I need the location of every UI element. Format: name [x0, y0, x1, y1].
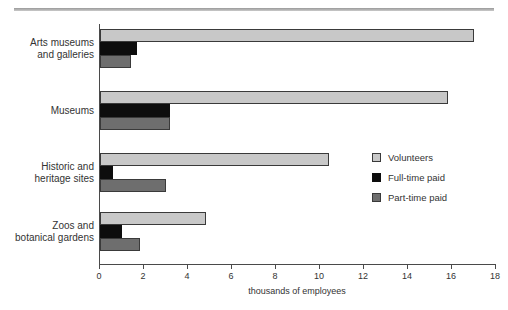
legend-item: Part-time paid — [372, 192, 447, 203]
x-tick-label-2: 2 — [133, 271, 153, 281]
bar-part-time-paid — [100, 179, 166, 192]
bar-volunteers — [100, 91, 448, 104]
x-axis-line — [99, 264, 495, 265]
x-tick-2 — [143, 264, 144, 269]
legend-label: Part-time paid — [388, 192, 447, 203]
x-tick-6 — [231, 264, 232, 269]
x-tick-12 — [363, 264, 364, 269]
category-label-line: Museums — [0, 105, 94, 117]
x-tick-label-10: 10 — [309, 271, 329, 281]
x-tick-label-0: 0 — [89, 271, 109, 281]
legend-swatch-icon — [372, 173, 381, 182]
bar-full-time-paid — [100, 104, 170, 117]
legend-label: Full-time paid — [388, 172, 445, 183]
x-tick-label-14: 14 — [397, 271, 417, 281]
legend-label: Volunteers — [388, 152, 433, 163]
x-tick-14 — [407, 264, 408, 269]
x-tick-18 — [495, 264, 496, 269]
category-label: Museums — [0, 105, 94, 117]
x-tick-label-8: 8 — [265, 271, 285, 281]
x-tick-4 — [187, 264, 188, 269]
x-tick-8 — [275, 264, 276, 269]
bar-volunteers — [100, 29, 474, 42]
bar-part-time-paid — [100, 55, 131, 68]
x-tick-16 — [451, 264, 452, 269]
legend-item: Volunteers — [372, 152, 447, 163]
chart-legend: VolunteersFull-time paidPart-time paid — [372, 152, 447, 212]
legend-swatch-icon — [372, 153, 381, 162]
bar-full-time-paid — [100, 225, 122, 238]
category-label: Arts museumsand galleries — [0, 37, 94, 61]
category-label-line: heritage sites — [0, 173, 94, 185]
x-tick-label-16: 16 — [441, 271, 461, 281]
category-label-line: Zoos and — [0, 220, 94, 232]
x-tick-label-18: 18 — [485, 271, 505, 281]
x-tick-10 — [319, 264, 320, 269]
bar-volunteers — [100, 212, 206, 225]
x-tick-label-12: 12 — [353, 271, 373, 281]
x-tick-label-4: 4 — [177, 271, 197, 281]
bar-full-time-paid — [100, 42, 137, 55]
x-axis-label: thousands of employees — [99, 286, 495, 296]
bar-part-time-paid — [100, 238, 140, 251]
category-label: Zoos andbotanical gardens — [0, 220, 94, 244]
category-label-line: Arts museums — [0, 37, 94, 49]
bar-chart: 024681012141618 thousands of employees A… — [0, 0, 508, 310]
x-tick-label-6: 6 — [221, 271, 241, 281]
category-label-line: Historic and — [0, 161, 94, 173]
bar-full-time-paid — [100, 166, 113, 179]
bar-volunteers — [100, 153, 329, 166]
bar-part-time-paid — [100, 117, 170, 130]
legend-item: Full-time paid — [372, 172, 447, 183]
category-label: Historic andheritage sites — [0, 161, 94, 185]
legend-swatch-icon — [372, 193, 381, 202]
category-label-line: and galleries — [0, 49, 94, 61]
category-label-line: botanical gardens — [0, 232, 94, 244]
x-tick-0 — [99, 264, 100, 269]
